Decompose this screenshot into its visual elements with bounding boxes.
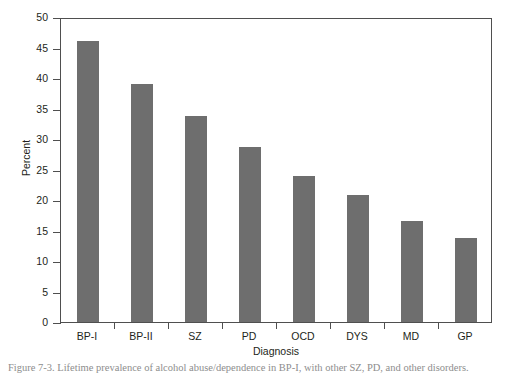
- bar-bp-ii: [131, 84, 153, 322]
- y-axis-tick: [53, 18, 61, 19]
- bar-bp-i: [77, 41, 99, 322]
- x-axis-tick: [384, 323, 385, 329]
- y-axis-tick-label: 20: [22, 195, 48, 206]
- x-axis-tick-label: OCD: [276, 331, 330, 342]
- y-axis-tick: [53, 110, 61, 111]
- x-axis-tick-label: MD: [384, 331, 438, 342]
- bar-slot: [169, 19, 223, 322]
- y-axis-tick-label: 0: [22, 317, 48, 328]
- x-axis-tick-label: BP-I: [60, 331, 114, 342]
- x-axis-tick: [222, 323, 223, 329]
- bar-slot: [61, 19, 115, 322]
- y-axis-tick-label: 5: [22, 287, 48, 298]
- x-axis-tick: [168, 323, 169, 329]
- x-axis-tick: [438, 323, 439, 329]
- x-axis-tick-label: GP: [438, 331, 492, 342]
- y-axis-tick: [53, 232, 61, 233]
- bar-slot: [439, 19, 493, 322]
- figure-caption: Figure 7-3. Lifetime prevalence of alcoh…: [8, 361, 500, 374]
- x-axis-tick-label: DYS: [330, 331, 384, 342]
- bar-sz: [185, 116, 207, 322]
- bar-slot: [115, 19, 169, 322]
- y-axis-tick: [53, 201, 61, 202]
- y-axis-tick: [53, 293, 61, 294]
- x-axis-tick: [330, 323, 331, 329]
- y-axis-tick: [53, 79, 61, 80]
- x-axis-title: Diagnosis: [60, 345, 492, 357]
- y-axis-tick: [53, 262, 61, 263]
- x-axis-tick-label: SZ: [168, 331, 222, 342]
- y-axis-tick-label: 50: [22, 12, 48, 23]
- y-axis-tick-label: 45: [22, 43, 48, 54]
- y-axis-tick-label: 35: [22, 104, 48, 115]
- bar-slot: [277, 19, 331, 322]
- bar-dys: [347, 195, 369, 322]
- y-axis-tick: [53, 323, 61, 324]
- bars-layer: [61, 19, 491, 322]
- x-axis-tick: [114, 323, 115, 329]
- bar-md: [401, 221, 423, 322]
- y-axis-tick: [53, 49, 61, 50]
- y-axis-tick-label: 10: [22, 256, 48, 267]
- bar-slot: [385, 19, 439, 322]
- bar-ocd: [293, 176, 315, 322]
- y-axis-tick-label: 30: [22, 134, 48, 145]
- x-axis-tick-label: PD: [222, 331, 276, 342]
- y-axis-tick-label: 40: [22, 73, 48, 84]
- y-axis-tick-label: 15: [22, 226, 48, 237]
- y-axis-tick: [53, 140, 61, 141]
- y-axis-tick: [53, 171, 61, 172]
- bar-pd: [239, 147, 261, 322]
- y-axis-tick-label: 25: [22, 165, 48, 176]
- x-axis-tick: [276, 323, 277, 329]
- x-axis-tick-label: BP-II: [114, 331, 168, 342]
- bar-gp: [455, 238, 477, 322]
- bar-slot: [223, 19, 277, 322]
- bar-slot: [331, 19, 385, 322]
